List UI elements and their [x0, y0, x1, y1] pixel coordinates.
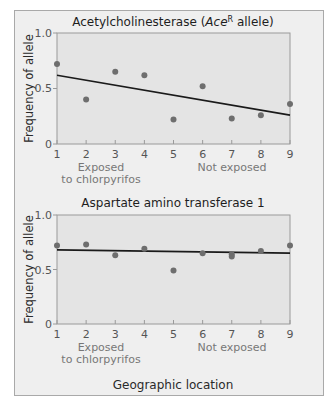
y-tick-0: 0 — [45, 318, 52, 331]
x-tick-label: 6 — [199, 148, 206, 161]
x-tick-label: 2 — [83, 148, 90, 161]
y-tick-1: 1.0 — [35, 27, 53, 40]
x-tick-label: 9 — [287, 328, 294, 341]
x-tick-label: 8 — [257, 148, 264, 161]
x-tick-label: 2 — [83, 328, 90, 341]
y-tick-0: 0 — [45, 138, 52, 151]
x-tick-label: 7 — [228, 328, 235, 341]
panel-acetylcholinesterase: Acetylcholinesterase (AceR allele) 12345… — [22, 15, 294, 186]
x-tick-label: 1 — [54, 148, 61, 161]
data-point — [287, 243, 293, 249]
data-point — [141, 72, 147, 78]
y-tick-1: 1.0 — [35, 209, 53, 222]
data-point — [141, 246, 147, 252]
not-exposed-label: Not exposed — [197, 341, 266, 354]
x-tick-label: 6 — [199, 328, 206, 341]
data-point — [54, 61, 60, 67]
x-tick-label: 8 — [257, 328, 264, 341]
plot-area — [57, 33, 290, 144]
exposed-label-line2: to chlorpyrifos — [61, 353, 141, 366]
x-tick-label: 7 — [228, 148, 235, 161]
data-point — [112, 69, 118, 75]
data-point — [112, 252, 118, 258]
x-tick-label: 3 — [112, 148, 119, 161]
data-point — [200, 250, 206, 256]
data-point — [229, 115, 235, 121]
data-point — [54, 243, 60, 249]
data-point — [287, 101, 293, 107]
data-point — [83, 241, 89, 247]
data-point — [171, 117, 177, 123]
y-tick-0.5: 0.5 — [35, 82, 53, 95]
x-tick-label: 5 — [170, 328, 177, 341]
exposed-label-line2: to chlorpyrifos — [61, 173, 141, 186]
data-point — [258, 112, 264, 118]
x-tick-label: 9 — [287, 148, 294, 161]
panel-aspartate-amino-transferase: Aspartate amino transferase 1 123456789 … — [22, 196, 294, 392]
x-tick-label: 4 — [141, 328, 148, 341]
y-tick-0.5: 0.5 — [35, 264, 53, 277]
x-tick-label: 5 — [170, 148, 177, 161]
data-point — [200, 83, 206, 89]
x-tick-label: 4 — [141, 148, 148, 161]
data-point — [229, 253, 235, 259]
x-tick-label: 1 — [54, 328, 61, 341]
x-tick-label: 3 — [112, 328, 119, 341]
not-exposed-label: Not exposed — [197, 161, 266, 174]
data-point — [171, 268, 177, 274]
chart-title: Acetylcholinesterase (AceR allele) — [72, 15, 273, 29]
data-point — [83, 97, 89, 103]
data-point — [258, 248, 264, 254]
x-axis-label: Geographic location — [113, 378, 234, 392]
chart-svg: Acetylcholinesterase (AceR allele) 12345… — [0, 0, 333, 405]
chart-title: Aspartate amino transferase 1 — [81, 196, 264, 210]
